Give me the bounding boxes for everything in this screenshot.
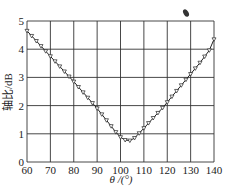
smudge-mark	[182, 8, 190, 17]
svg-text:70: 70	[45, 164, 57, 176]
svg-text:120: 120	[159, 164, 176, 176]
svg-text:140: 140	[206, 164, 223, 176]
svg-text:80: 80	[68, 164, 80, 176]
y-axis-label: 轴比/dB	[1, 73, 14, 111]
svg-text:130: 130	[182, 164, 199, 176]
svg-text:1: 1	[19, 128, 25, 140]
svg-text:3: 3	[19, 71, 25, 83]
svg-text:90: 90	[92, 164, 104, 176]
svg-text:5: 5	[19, 15, 25, 27]
grid	[27, 21, 214, 162]
svg-text:110: 110	[136, 164, 153, 176]
axial-ratio-chart: 60708090100110120130140012345 轴比/dB θ /(…	[0, 0, 230, 186]
svg-text:2: 2	[19, 100, 25, 112]
x-axis-label: θ /(°)	[110, 173, 133, 186]
svg-text:0: 0	[19, 156, 25, 168]
svg-text:4: 4	[19, 43, 25, 55]
